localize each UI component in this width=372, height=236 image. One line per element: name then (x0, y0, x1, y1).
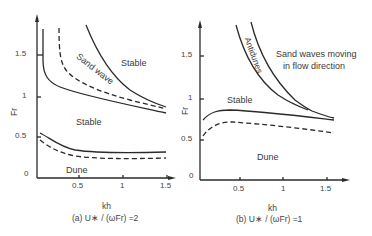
panel-b-ytick-0.5: 0.5 (181, 135, 192, 143)
panel-a-region-dune: Dune (66, 166, 88, 175)
curve-a-sandwave-dashed (59, 28, 166, 109)
phase-diagram (0, 0, 372, 236)
panel-b-ylabel: Fr (181, 107, 190, 115)
curve-a-dune-dashed (40, 140, 166, 159)
curve-a-dune-solid (40, 133, 166, 153)
panel-a-caption: (a) U∗ / (ωFr) =2 (72, 214, 138, 223)
panel-b-caption: (b) U∗ / (ωFr) =1 (236, 215, 302, 224)
panel-a-ytick-0: 0 (24, 170, 28, 178)
panel-b-curves (203, 22, 334, 136)
panel-b-ytick-0: 0 (189, 172, 193, 180)
panel-a-curves (40, 25, 166, 159)
panel-a-xtick-1: 1 (120, 182, 124, 190)
panel-a-region-stable-middle: Stable (76, 118, 102, 127)
panel-a-region-stable-upper: Stable (121, 59, 147, 68)
panel-b-ytick-1: 1 (188, 94, 192, 102)
panel-a-ylabel: Fr (10, 108, 19, 116)
panel-b-xtick-1.5: 1.5 (320, 185, 331, 193)
panel-b-xtick-1: 1 (281, 185, 285, 193)
panel-b-region-sand-waves-line2: in flow direction (283, 62, 345, 71)
panel-a-xtick-1.5: 1.5 (160, 182, 171, 190)
panel-a-ytick-1: 1 (22, 92, 26, 100)
curve-b-dune-dashed (203, 122, 334, 136)
panel-b-ytick-1.5: 1.5 (181, 51, 192, 59)
panel-a-ytick-0.5: 0.5 (15, 132, 26, 140)
panel-b-xtick-0.5: 0.5 (233, 185, 244, 193)
panel-b-region-stable: Stable (227, 96, 253, 105)
panel-b-region-sand-waves-line1: Sand waves moving (276, 50, 357, 59)
panel-a-xtick-0.5: 0.5 (72, 182, 83, 190)
panel-a-axes (35, 14, 176, 180)
panel-a-ytick-1.5: 1.5 (15, 50, 26, 58)
panel-b-xlabel: kh (268, 204, 277, 213)
panel-a-xlabel: kh (102, 202, 111, 211)
panel-b-region-dune: Dune (257, 153, 279, 162)
